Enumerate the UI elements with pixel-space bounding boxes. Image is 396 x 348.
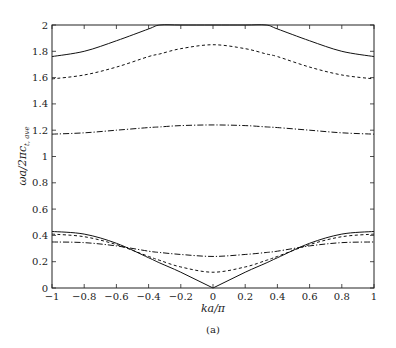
y-tick-label: 0.8 [32,177,48,188]
y-tick-label: 1.2 [32,125,48,136]
plot-frame [52,25,374,288]
x-tick-label: −0.2 [169,291,193,302]
series-upper-dashdot [52,125,374,134]
x-tick-label: 0.6 [302,291,318,302]
series-lower-dashdot [52,242,374,256]
x-tick-label: 0 [210,291,216,302]
tick-labels: −1−0.8−0.6−0.4−0.200.20.40.60.8100.20.40… [32,20,377,303]
figure-caption: (a) [206,324,220,335]
y-tick-label: 1.6 [32,72,48,83]
x-tick-label: 0.8 [334,291,350,302]
y-tick-label: 1.4 [32,98,48,109]
series-lower-dashed [52,234,374,272]
y-tick-label: 0.2 [32,256,48,267]
y-tick-label: 0 [42,283,48,294]
y-tick-label: 1.8 [32,46,48,57]
x-tick-label: 0.4 [269,291,285,302]
x-tick-label: −0.6 [104,291,128,302]
series-upper-solid [52,25,374,57]
series-upper-dashed [52,45,374,79]
axis-ticks [52,25,374,288]
y-tick-label: 0.4 [32,230,48,241]
x-tick-label: 0.2 [237,291,253,302]
y-tick-label: 2 [42,20,48,31]
y-tick-label: 1 [42,151,48,162]
y-tick-label: 0.6 [32,204,48,215]
x-axis-label: ka/π [201,302,226,315]
y-axis-label: ωa/2πct, ave [16,126,31,185]
x-tick-label: −0.4 [136,291,160,302]
x-tick-label: −0.8 [72,291,96,302]
curves [52,25,374,288]
dispersion-chart: −1−0.8−0.6−0.4−0.200.20.40.60.8100.20.40… [0,0,396,348]
x-tick-label: 1 [371,291,377,302]
series-lower-solid [52,231,374,288]
